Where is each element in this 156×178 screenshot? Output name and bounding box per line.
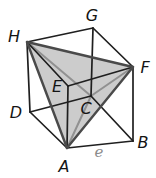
cube-edge-BC <box>91 96 133 141</box>
edge-length-label: e <box>95 143 104 161</box>
vertex-label-H: H <box>8 27 20 46</box>
geometry-figure: GHFECDBAe <box>0 0 156 178</box>
vertex-label-D: D <box>10 103 22 122</box>
vertex-label-B: B <box>138 133 149 152</box>
geometry-diagram: GHFECDBAe <box>0 0 156 178</box>
cube-edge-DH <box>27 42 30 112</box>
vertex-label-A: A <box>58 157 70 176</box>
vertex-label-E: E <box>52 77 63 96</box>
vertex-label-F: F <box>140 58 150 77</box>
vertex-label-C: C <box>80 99 92 118</box>
vertex-label-G: G <box>86 6 98 25</box>
cube-edge-AE <box>67 86 68 148</box>
cube-edge-GH <box>27 28 93 42</box>
